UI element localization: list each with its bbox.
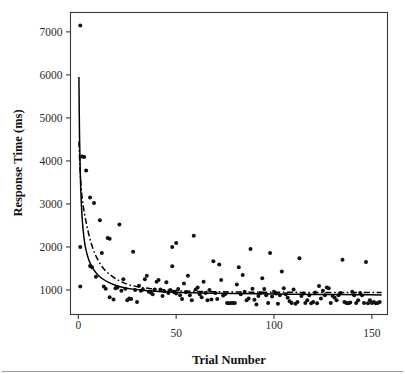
y-axis-tick-labels: 1000200030004000500060007000: [40, 26, 63, 296]
data-point: [117, 223, 121, 227]
data-point: [205, 298, 209, 302]
data-point: [135, 300, 139, 304]
data-point: [247, 297, 251, 301]
data-point: [180, 297, 184, 301]
data-point: [215, 297, 219, 301]
data-point: [121, 277, 125, 281]
data-point: [233, 301, 237, 305]
data-point: [270, 294, 274, 298]
data-point: [260, 276, 264, 280]
data-point: [282, 286, 286, 290]
data-point: [315, 301, 319, 305]
data-point: [249, 247, 253, 251]
data-point: [202, 280, 206, 284]
data-point: [104, 287, 108, 291]
x-tick-label-0: 0: [75, 319, 81, 331]
data-point: [356, 298, 360, 302]
data-point: [112, 297, 116, 301]
data-point: [297, 256, 301, 260]
data-point: [188, 293, 192, 297]
y-axis-title: Response Time (ms): [11, 109, 25, 216]
data-point: [319, 297, 323, 301]
data-point: [329, 301, 333, 305]
y-tick-label-7000: 7000: [40, 26, 63, 38]
scatter-point-group: [78, 23, 381, 306]
x-tick-label-100: 100: [265, 319, 283, 331]
data-point: [174, 241, 178, 245]
data-point: [280, 269, 284, 273]
data-point: [78, 285, 82, 289]
data-point: [100, 251, 104, 255]
data-point: [276, 302, 280, 306]
data-point: [88, 195, 92, 199]
response-time-scatter-chart: 1000200030004000500060007000 050100150 T…: [0, 0, 405, 374]
data-point: [362, 301, 366, 305]
data-point: [178, 293, 182, 297]
data-point: [108, 237, 112, 241]
y-axis-tick-group: [66, 32, 71, 290]
fit-curve-dashdot: [79, 142, 382, 293]
data-point: [286, 296, 290, 300]
data-point: [170, 264, 174, 268]
x-tick-label-50: 50: [170, 327, 182, 339]
data-point: [268, 251, 272, 255]
data-point: [364, 260, 368, 264]
x-tick-label-150: 150: [363, 327, 381, 339]
data-point: [237, 265, 241, 269]
data-point: [266, 301, 270, 305]
data-point: [82, 155, 86, 159]
x-axis-tick-group: [78, 315, 372, 320]
data-point: [241, 273, 245, 277]
data-point: [295, 300, 299, 304]
y-tick-label-6000: 6000: [40, 69, 63, 81]
data-point: [254, 303, 258, 307]
data-point: [235, 282, 239, 286]
data-point: [78, 245, 82, 249]
y-tick-label-2000: 2000: [40, 241, 63, 253]
data-point: [252, 298, 256, 302]
data-point: [143, 277, 147, 281]
x-axis-title: Trial Number: [192, 353, 266, 367]
data-point: [78, 23, 82, 27]
data-point: [196, 285, 200, 289]
data-point: [200, 295, 204, 299]
data-point: [211, 259, 215, 263]
data-point: [290, 301, 294, 305]
data-point: [170, 245, 174, 249]
data-point: [327, 286, 331, 290]
data-point: [98, 218, 102, 222]
data-point: [378, 300, 382, 304]
data-point: [250, 287, 254, 291]
y-tick-label-1000: 1000: [40, 284, 63, 296]
data-point: [305, 298, 309, 302]
data-point: [317, 284, 321, 288]
data-point: [348, 300, 352, 304]
data-point: [160, 294, 164, 298]
data-point: [164, 280, 168, 284]
y-tick-label-5000: 5000: [40, 112, 63, 124]
data-point: [311, 300, 315, 304]
data-point: [192, 234, 196, 238]
data-point: [84, 168, 88, 172]
data-point: [145, 274, 149, 278]
data-point: [182, 282, 186, 286]
data-point: [335, 298, 339, 302]
data-point: [217, 263, 221, 267]
data-point: [131, 250, 135, 254]
data-point: [209, 297, 213, 301]
data-point: [129, 297, 133, 301]
data-point: [92, 201, 96, 205]
y-tick-label-3000: 3000: [40, 198, 63, 210]
data-point: [340, 258, 344, 262]
x-axis-tick-labels: 050100150: [75, 319, 380, 339]
data-point: [119, 289, 123, 293]
y-tick-label-4000: 4000: [40, 155, 63, 167]
data-point: [292, 288, 296, 292]
data-point: [186, 274, 190, 278]
data-point: [151, 292, 155, 296]
fit-curve-solid: [79, 77, 382, 295]
data-point: [219, 278, 223, 282]
plot-frame: [71, 13, 388, 315]
figure-container: 1000200030004000500060007000 050100150 T…: [0, 0, 405, 374]
data-point: [157, 278, 161, 282]
